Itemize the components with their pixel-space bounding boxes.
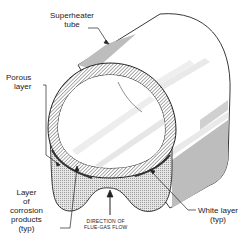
label-white-layer: White layer (typ) <box>198 206 238 224</box>
label-line: (typ) <box>198 215 238 224</box>
label-line: corrosion <box>10 206 43 215</box>
label-line: Superheater <box>50 11 94 20</box>
label-line: White layer <box>198 206 238 215</box>
label-line: of <box>10 197 43 206</box>
label-line: Layer <box>10 188 43 197</box>
label-line: layer <box>6 82 31 91</box>
label-line: Porous <box>6 73 31 82</box>
label-flue-gas-flow: DIRECTION OF FLUE-GAS FLOW <box>84 218 127 230</box>
label-corrosion-layer: Layer of corrosion products (typ) <box>10 188 43 233</box>
label-line: tube <box>50 20 94 29</box>
label-porous-layer: Porous layer <box>6 73 31 91</box>
label-line: FLUE-GAS FLOW <box>84 224 127 230</box>
label-line: products <box>10 215 43 224</box>
label-line: (typ) <box>10 224 43 233</box>
label-superheater-tube: Superheater tube <box>50 11 94 29</box>
